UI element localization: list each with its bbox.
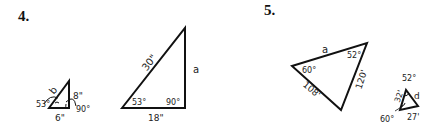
- p4-small-angle-53: 53°: [36, 100, 50, 109]
- p4-small-side-6: 6": [55, 113, 65, 123]
- problem-4-large-triangle: 30" a 18" 53° 90°: [122, 28, 199, 123]
- p5-small-angle-60: 60°: [380, 115, 394, 124]
- triangles-diagram: b 8" 6" 53° 90° 30" a 18" 53° 90° a 108'…: [0, 0, 438, 131]
- p5-small-side-27: 27': [407, 113, 419, 122]
- p4-large-side-a: a: [193, 64, 199, 75]
- p4-small-side-8: 8": [73, 91, 83, 101]
- p4-small-angle-90: 90°: [76, 105, 90, 114]
- p5-large-angle-52: 52°: [347, 51, 361, 60]
- problem-5-large-triangle: a 108' 120' 60° 52°: [292, 43, 369, 110]
- p5-small-angle-52: 52°: [402, 74, 416, 83]
- p4-large-angle-53: 53°: [132, 98, 146, 107]
- p5-small-side-d: d: [414, 91, 420, 101]
- p5-large-side-a: a: [322, 44, 328, 55]
- p5-large-angle-60: 60°: [302, 66, 316, 75]
- problem-5-small-triangle: 52° 32' d 27' 60°: [380, 74, 420, 124]
- problem-4-small-triangle: b 8" 6" 53° 90°: [36, 81, 90, 123]
- p4-large-side-18: 18": [148, 113, 164, 123]
- p4-large-side-30: 30": [140, 52, 159, 72]
- p5-large-side-108: 108': [301, 79, 322, 99]
- p4-large-angle-90: 90°: [166, 98, 180, 107]
- p4-small-side-b: b: [47, 84, 60, 96]
